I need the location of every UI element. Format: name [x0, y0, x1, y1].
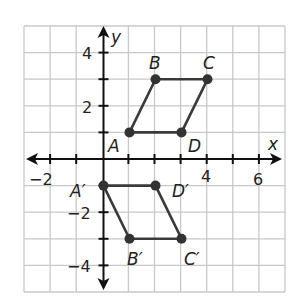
- x-tick-label-neg2: −2: [29, 170, 53, 189]
- y-tick-label-2: 2: [82, 98, 92, 117]
- x-axis: [32, 154, 276, 164]
- x-tick-label-4: 4: [201, 167, 211, 186]
- y-tick-label-4: 4: [82, 44, 92, 63]
- point-c: [203, 74, 213, 84]
- label-c: C: [203, 53, 215, 73]
- point-a: [125, 127, 135, 137]
- y-tick-label-neg2: −2: [67, 204, 91, 223]
- point-a-prime: [99, 181, 109, 191]
- label-c-prime: C′: [184, 249, 200, 269]
- point-d-prime: [151, 181, 161, 191]
- point-b: [151, 74, 161, 84]
- label-a-prime: A′: [69, 181, 86, 201]
- y-axis-label: y: [110, 27, 122, 47]
- x-tick-label-6: 6: [253, 170, 263, 189]
- label-d-prime: D′: [172, 181, 189, 201]
- label-b: B: [149, 53, 161, 73]
- label-b-prime: B′: [127, 249, 143, 269]
- label-a: A: [107, 136, 120, 156]
- point-c-prime: [177, 234, 187, 244]
- coordinate-plane: x y −2 4 6 4 2 −2 −4 A B C D A′ B′ C′ D′: [0, 0, 301, 308]
- y-tick-label-neg4: −4: [67, 257, 91, 276]
- point-d: [177, 127, 187, 137]
- label-d: D: [188, 136, 201, 156]
- point-b-prime: [125, 234, 135, 244]
- x-axis-label: x: [267, 134, 279, 154]
